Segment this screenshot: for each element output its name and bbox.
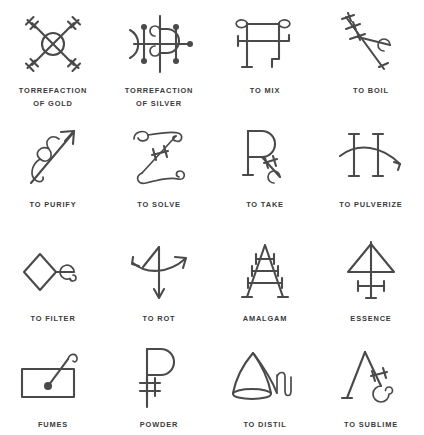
to-purify-icon xyxy=(5,122,101,194)
symbol-label: POWDER xyxy=(140,418,178,431)
symbol-label: TO PULVERIZE xyxy=(339,198,402,211)
symbol-cell-to-rot: TO ROT xyxy=(106,228,212,334)
symbol-cell-to-take: TO TAKE xyxy=(212,114,318,228)
torrefaction-of-gold-icon xyxy=(5,8,101,80)
to-take-icon xyxy=(217,122,313,194)
symbol-cell-to-purify: TO PURIFY xyxy=(0,114,106,228)
symbol-cell-essence: ESSENCE xyxy=(318,228,424,334)
symbol-label: FUMES xyxy=(38,418,68,431)
powder-icon xyxy=(111,342,207,414)
fumes-icon xyxy=(5,342,101,414)
to-pulverize-icon xyxy=(323,122,419,194)
to-mix-icon xyxy=(217,8,313,80)
torrefaction-of-silver-icon xyxy=(111,8,207,80)
essence-icon xyxy=(323,236,419,308)
to-sublime-icon xyxy=(323,342,419,414)
symbol-cell-powder: POWDER xyxy=(106,334,212,435)
symbol-label: TO FILTER xyxy=(30,312,75,325)
to-rot-icon xyxy=(111,236,207,308)
to-boil-icon xyxy=(323,8,419,80)
symbol-label: TO PURIFY xyxy=(30,198,77,211)
symbol-label: TO ROT xyxy=(143,312,176,325)
symbol-cell-torrefaction-of-gold: TORREFACTION OF GOLD xyxy=(0,0,106,114)
symbol-label: TO DISTIL xyxy=(243,418,286,431)
symbol-cell-to-pulverize: TO PULVERIZE xyxy=(318,114,424,228)
symbol-label: TORREFACTION OF GOLD xyxy=(19,84,87,110)
symbol-label: TO MIX xyxy=(250,84,280,97)
symbol-cell-amalgam: AMALGAM xyxy=(212,228,318,334)
to-distil-icon xyxy=(217,342,313,414)
to-filter-icon xyxy=(5,236,101,308)
symbol-cell-to-boil: TO BOIL xyxy=(318,0,424,114)
symbol-label: ESSENCE xyxy=(350,312,391,325)
symbol-label: TO TAKE xyxy=(246,198,284,211)
symbol-label: TO SUBLIME xyxy=(344,418,398,431)
to-solve-icon xyxy=(111,122,207,194)
symbol-cell-to-solve: TO SOLVE xyxy=(106,114,212,228)
symbol-label: TO SOLVE xyxy=(137,198,181,211)
symbol-cell-to-mix: TO MIX xyxy=(212,0,318,114)
symbol-label: TO BOIL xyxy=(353,84,389,97)
symbol-chart-grid: TORREFACTION OF GOLD TORREFACTION OF SIL… xyxy=(0,0,424,435)
symbol-cell-to-filter: TO FILTER xyxy=(0,228,106,334)
symbol-cell-to-sublime: TO SUBLIME xyxy=(318,334,424,435)
symbol-label: AMALGAM xyxy=(243,312,288,325)
symbol-cell-to-distil: TO DISTIL xyxy=(212,334,318,435)
symbol-cell-torrefaction-of-silver: TORREFACTION OF SILVER xyxy=(106,0,212,114)
symbol-cell-fumes: FUMES xyxy=(0,334,106,435)
amalgam-icon xyxy=(217,236,313,308)
symbol-label: TORREFACTION OF SILVER xyxy=(125,84,193,110)
